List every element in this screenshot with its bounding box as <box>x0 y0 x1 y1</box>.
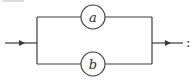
arrowhead-icon <box>19 40 25 46</box>
output-arrow <box>152 40 183 46</box>
input-arrow <box>5 40 37 46</box>
trailing-colon: : <box>186 35 190 50</box>
arrowhead-icon <box>165 40 171 46</box>
node-b-label: b <box>89 57 97 72</box>
cut-off-text-fragment <box>2 0 24 2</box>
parallel-diagram: a b : <box>0 0 195 82</box>
node-a-label: a <box>89 10 97 25</box>
branch-bottom: b <box>37 52 152 76</box>
branch-top: a <box>37 5 152 29</box>
